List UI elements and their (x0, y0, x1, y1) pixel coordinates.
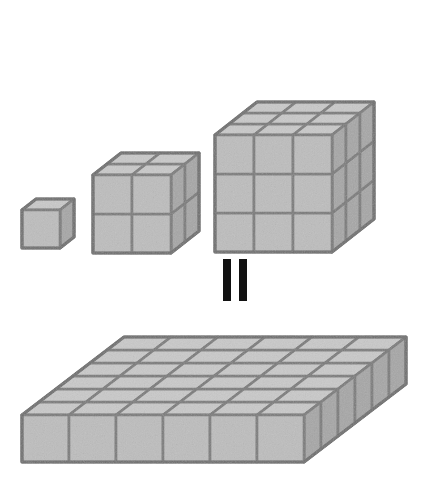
cube-2-front-cell-1-1 (132, 175, 171, 214)
equals-bar-right (239, 259, 247, 301)
cube-2-front-cell-0-1 (93, 175, 132, 214)
cube-3x3x3 (215, 102, 374, 252)
slab-6x6x1-front-cell-4-0 (210, 415, 257, 462)
cube-3-front-cell-0-0 (215, 213, 254, 252)
isometric-cubes-illustration (0, 0, 430, 493)
cube-3-front-cell-1-1 (254, 174, 293, 213)
slab-6x6x1-front-cell-3-0 (163, 415, 210, 462)
slab-6x6x1-front-cell-2-0 (116, 415, 163, 462)
cube-2x2x2 (93, 153, 199, 253)
cube-2-front-cell-0-0 (93, 214, 132, 253)
cube-3-front-cell-2-2 (293, 135, 332, 174)
cube-3-front-cell-1-0 (254, 213, 293, 252)
cube-1x1x1 (22, 199, 74, 248)
slab-6x6x1-front-cell-1-0 (69, 415, 116, 462)
slab-6x6x1-front-cell-5-0 (257, 415, 304, 462)
cube-1-front-cell-0-0 (22, 210, 60, 248)
equals-bar-left (223, 259, 231, 301)
cube-2-front-cell-1-0 (132, 214, 171, 253)
cube-3-front-cell-0-1 (215, 174, 254, 213)
sum-of-cubes-figure: 1³ + 2³ + 3³ = 6² (0, 0, 430, 493)
cube-3-front-cell-1-2 (254, 135, 293, 174)
cube-3-front-cell-0-2 (215, 135, 254, 174)
cube-3-front-cell-2-1 (293, 174, 332, 213)
cube-3-front-cell-2-0 (293, 213, 332, 252)
slab-6x6x1-front-cell-0-0 (22, 415, 69, 462)
